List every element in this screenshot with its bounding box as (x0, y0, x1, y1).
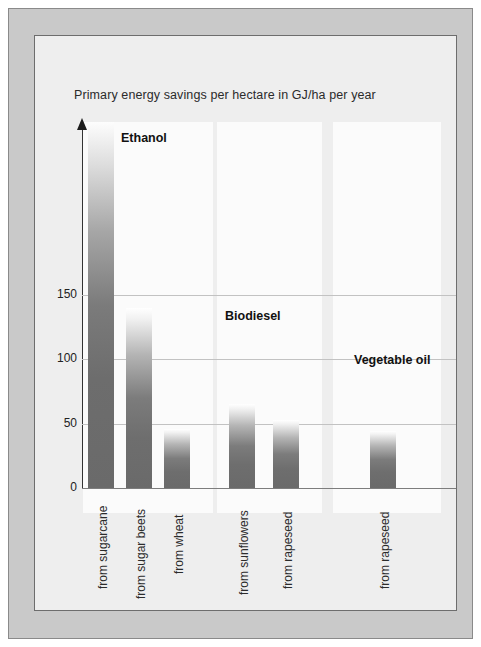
category-label-from-sugarcane: from sugarcane (96, 506, 110, 589)
series-label-vegetable-oil: Vegetable oil (354, 353, 430, 367)
y-tick-label-50: 50 (43, 416, 77, 430)
bar-from-sugarcane (88, 122, 114, 488)
y-tick-label-0: 0 (43, 480, 77, 494)
y-tick-label-150: 150 (43, 287, 77, 301)
bar-chart: Primary energy savings per hectare in GJ… (35, 36, 456, 610)
chart-outer-frame: Primary energy savings per hectare in GJ… (8, 8, 473, 639)
series-label-ethanol: Ethanol (121, 131, 167, 145)
y-axis-arrow-icon (77, 118, 87, 130)
bar-from-sunflowers (229, 404, 255, 488)
category-label-from-sunflowers: from sunflowers (237, 510, 251, 595)
bar-from-wheat (164, 429, 190, 488)
bar-from-rapeseed-biodiesel (273, 420, 299, 488)
chart-inner-frame: Primary energy savings per hectare in GJ… (34, 35, 457, 611)
y-tick-label-100: 100 (43, 351, 77, 365)
bar-from-rapeseed-vegetable-oil (370, 431, 396, 488)
category-label-from-wheat: from wheat (172, 515, 186, 574)
chart-title: Primary energy savings per hectare in GJ… (74, 88, 376, 102)
category-label-from-sugar-beets: from sugar beets (134, 509, 148, 599)
category-label-from-rapeseed-vegetable-oil: from rapeseed (378, 512, 392, 589)
category-label-from-rapeseed-biodiesel: from rapeseed (281, 512, 295, 589)
y-axis-line (82, 126, 83, 488)
axis-baseline (82, 488, 456, 489)
gridline-150 (82, 295, 456, 296)
series-label-biodiesel: Biodiesel (225, 309, 281, 323)
bar-from-sugar-beets (126, 308, 152, 488)
